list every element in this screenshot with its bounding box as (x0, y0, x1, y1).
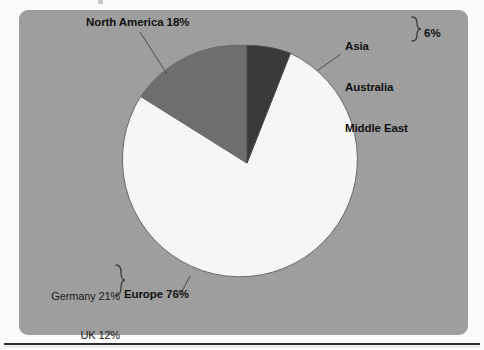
figure-root: North America 18% Asia Australia Middle … (0, 0, 484, 350)
leader-line-north-america (140, 32, 167, 74)
page-bottom-rule (4, 343, 480, 345)
europe-breakdown-list: Germany 21% UK 12% Sweden 7% Other 36% (28, 264, 120, 350)
brace-asia (412, 17, 421, 41)
europe-breakdown-germany: Germany 21% (28, 290, 120, 303)
europe-breakdown-uk: UK 12% (28, 329, 120, 342)
pie-label-europe: Europe 76% (124, 288, 189, 302)
pie-label-asia-line-1: Asia (345, 40, 408, 54)
pie-label-asia-line-3: Middle East (345, 122, 408, 136)
pie-label-asia-line-2: Australia (345, 81, 408, 95)
page-bottom-rule-secondary (4, 346, 480, 347)
pie-label-asia-australia-middle-east: Asia Australia Middle East (345, 13, 408, 162)
leader-line-asia (318, 54, 341, 70)
pie-label-north-america: North America 18% (86, 16, 189, 30)
pie-label-asia-percent: 6% (424, 27, 441, 41)
